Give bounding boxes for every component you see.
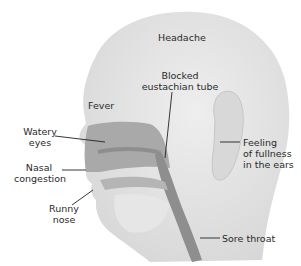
label-sore-throat: Sore throat [222, 233, 275, 244]
label-nasal-congestion: Nasal congestion [14, 162, 64, 184]
label-watery-eyes: Watery eyes [18, 126, 62, 148]
label-fever: Fever [88, 100, 114, 111]
label-headache: Headache [158, 32, 206, 43]
label-ear-fullness: Feeling of fullness in the ears [243, 137, 294, 170]
label-runny-nose: Runny nose [44, 203, 84, 225]
label-blocked-eustachian-tube: Blocked eustachian tube [140, 70, 220, 92]
